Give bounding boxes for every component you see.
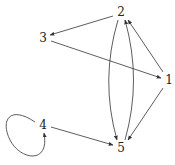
node-1: 1	[165, 73, 173, 87]
edge-2-to-3	[50, 16, 113, 35]
node-5: 5	[117, 141, 125, 155]
node-3: 3	[39, 31, 47, 45]
edge-4-to-5	[51, 127, 113, 145]
edge-3-to-1	[51, 41, 161, 78]
node-4: 4	[39, 118, 47, 132]
edge-5-to-2	[125, 20, 134, 140]
directed-graph: 12345	[0, 0, 175, 165]
edge-2-to-5	[109, 20, 118, 140]
node-2: 2	[117, 5, 125, 19]
